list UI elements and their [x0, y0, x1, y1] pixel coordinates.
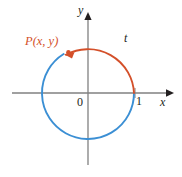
x-axis-arrowhead-icon — [166, 89, 174, 97]
arc-parameter-label: t — [124, 32, 127, 44]
origin-label: 0 — [77, 96, 83, 108]
unit-tick-label: 1 — [136, 95, 142, 107]
y-axis-arrowhead-icon — [84, 12, 91, 20]
x-axis — [12, 89, 174, 97]
x-axis-label: x — [160, 96, 165, 108]
y-axis — [84, 12, 91, 165]
traversed-arc — [66, 49, 134, 93]
unit-circle-figure: y x 0 1 P(x, y) t — [0, 0, 182, 177]
terminal-point-label: P(x, y) — [25, 35, 58, 48]
figure-canvas — [0, 0, 182, 177]
y-axis-label: y — [78, 4, 83, 16]
terminal-point-marker — [66, 50, 70, 54]
